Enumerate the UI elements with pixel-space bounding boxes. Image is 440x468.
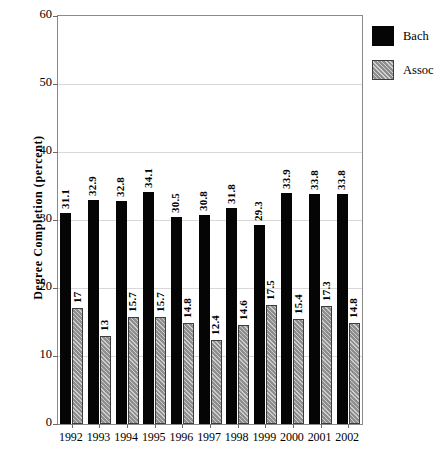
bar-value-label: 29.3 (252, 201, 264, 221)
black-solid-swatch (372, 26, 394, 46)
x-tick-label: 2002 (331, 430, 363, 445)
y-tick-mark (53, 424, 58, 425)
bar-bach: 31.1 (60, 213, 71, 424)
y-tick-mark (53, 288, 58, 289)
bar-value-label: 14.8 (347, 298, 359, 318)
plot-area: 31.11732.91332.815.734.115.730.514.830.8… (57, 15, 363, 425)
bar-value-label: 30.5 (169, 193, 181, 213)
bar-value-label: 14.8 (181, 298, 193, 318)
bar-value-label: 33.8 (335, 170, 347, 190)
legend-label-assoc: Assoc (403, 63, 434, 78)
bar-value-label: 17 (70, 292, 82, 303)
bar-group: 33.915.4 (281, 16, 304, 424)
bar-value-label: 17.3 (319, 281, 331, 301)
bar-bach: 31.8 (226, 208, 237, 424)
x-tick-mark (127, 424, 128, 428)
bar-value-label: 31.8 (224, 184, 236, 204)
bar-assoc: 15.7 (155, 317, 166, 424)
bar-value-label: 15.4 (291, 294, 303, 314)
y-tick-label: 10 (22, 348, 52, 361)
y-tick-label: 40 (22, 144, 52, 157)
bar-bach: 30.5 (171, 217, 182, 424)
bar-value-label: 30.8 (197, 191, 209, 211)
y-tick-label: 60 (22, 8, 52, 21)
bar-value-label: 32.9 (86, 176, 98, 196)
legend-label-bach: Bach (403, 29, 429, 44)
bar-group: 31.117 (60, 16, 83, 424)
bar-group: 32.913 (88, 16, 111, 424)
bar-group: 30.514.8 (171, 16, 194, 424)
plot-inner: 31.11732.91332.815.734.115.730.514.830.8… (58, 16, 362, 424)
legend-entry-bach: Bach (372, 26, 438, 46)
bar-group: 33.817.3 (309, 16, 332, 424)
bar-assoc: 14.6 (238, 325, 249, 424)
gray-hatched-swatch (372, 60, 394, 80)
bar-assoc: 17.3 (321, 306, 332, 424)
x-tick-mark (72, 424, 73, 428)
chart-legend: Bach Assoc (372, 26, 438, 94)
bar-group: 33.814.8 (337, 16, 360, 424)
bar-assoc: 15.7 (128, 317, 139, 424)
legend-entry-assoc: Assoc (372, 60, 438, 80)
bar-assoc: 15.4 (293, 319, 304, 424)
bar-value-label: 34.1 (141, 168, 153, 188)
bar-bach: 32.8 (116, 201, 127, 424)
bar-group: 30.812.4 (199, 16, 222, 424)
y-tick-mark (53, 84, 58, 85)
bar-value-label: 33.8 (307, 170, 319, 190)
y-tick-label: 30 (22, 212, 52, 225)
x-tick-mark (265, 424, 266, 428)
y-tick-mark (53, 16, 58, 17)
bar-group: 34.115.7 (143, 16, 166, 424)
bar-assoc: 13 (100, 336, 111, 424)
bar-bach: 29.3 (254, 225, 265, 424)
bar-assoc: 17 (72, 308, 83, 424)
x-tick-mark (321, 424, 322, 428)
y-tick-label: 20 (22, 280, 52, 293)
y-tick-mark (53, 152, 58, 153)
bar-bach: 32.9 (88, 200, 99, 424)
bar-value-label: 33.9 (279, 169, 291, 189)
x-tick-mark (155, 424, 156, 428)
x-tick-mark (182, 424, 183, 428)
x-tick-mark (99, 424, 100, 428)
x-tick-mark (348, 424, 349, 428)
y-tick-label: 50 (22, 76, 52, 89)
bar-value-label: 12.4 (209, 315, 221, 335)
bar-assoc: 12.4 (211, 340, 222, 424)
bar-value-label: 15.7 (126, 292, 138, 312)
y-tick-label: 0 (22, 416, 52, 429)
bar-assoc: 17.5 (266, 305, 277, 424)
bar-bach: 33.8 (309, 194, 320, 424)
y-tick-mark (53, 220, 58, 221)
bar-value-label: 17.5 (264, 280, 276, 300)
x-tick-mark (210, 424, 211, 428)
bar-value-label: 15.7 (153, 292, 165, 312)
x-tick-mark (238, 424, 239, 428)
bar-group: 29.317.5 (254, 16, 277, 424)
bar-value-label: 14.6 (236, 300, 248, 320)
bar-assoc: 14.8 (183, 323, 194, 424)
bar-value-label: 31.1 (58, 188, 70, 208)
y-tick-mark (53, 356, 58, 357)
bar-group: 32.815.7 (116, 16, 139, 424)
bar-chart-figure: Degree Completion (percent) 31.11732.913… (0, 0, 440, 468)
x-tick-mark (293, 424, 294, 428)
bar-group: 31.814.6 (226, 16, 249, 424)
bar-value-label: 13 (98, 319, 110, 330)
bar-value-label: 32.8 (114, 177, 126, 197)
bar-assoc: 14.8 (349, 323, 360, 424)
